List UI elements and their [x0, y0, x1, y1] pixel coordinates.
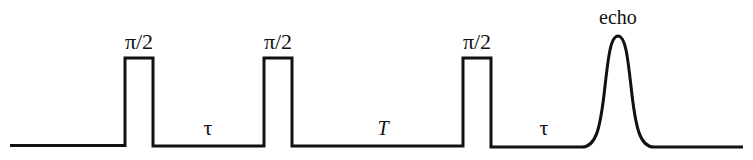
pulse-sequence-diagram: π/2 π/2 π/2 τ T τ echo [0, 0, 753, 160]
interval-tau-2-label: τ [540, 115, 549, 140]
interval-T-label: T [377, 117, 390, 139]
pulse-2-label: π/2 [264, 29, 292, 54]
echo-label: echo [599, 6, 637, 28]
interval-tau-1-label: τ [204, 115, 213, 140]
pulse-3-label: π/2 [463, 29, 491, 54]
pulse-1-label: π/2 [125, 29, 153, 54]
pulse-sequence-svg: π/2 π/2 π/2 τ T τ echo [0, 0, 753, 160]
